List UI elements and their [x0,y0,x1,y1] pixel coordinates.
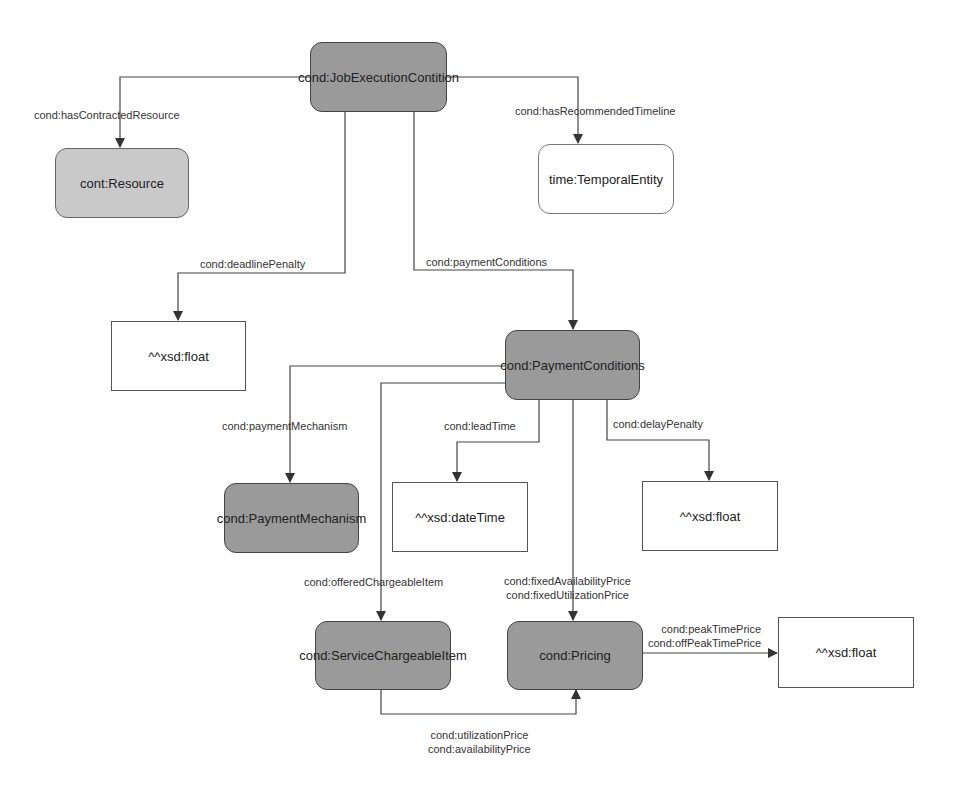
edge-label-fixed-utilization-price: cond:fixedUtilizationPrice [504,588,631,602]
node-delay-float[interactable]: ^^xsd:float [642,481,778,551]
node-pricing[interactable]: cond:Pricing [507,621,643,690]
node-label: cond:PaymentMechanism [217,511,367,526]
edge-label-fixed-prices: cond:fixedAvailabilityPrice cond:fixedUt… [504,574,631,602]
edge-label-availability-price: cond:availabilityPrice [428,742,531,756]
node-label: cond:PaymentConditions [500,358,645,373]
node-label: time:TemporalEntity [549,172,663,187]
node-label: ^^xsd:float [680,509,741,524]
edge-label-item-prices: cond:utilizationPrice cond:availabilityP… [428,728,531,756]
node-label: ^^xsd:float [148,349,209,364]
node-lead-datetime[interactable]: ^^xsd:dateTime [392,482,528,552]
edge-label-has-recommended-timeline: cond:hasRecommendedTimeline [515,104,675,118]
edge-label-lead-time: cond:leadTime [444,419,516,433]
node-payment-conditions[interactable]: cond:PaymentConditions [505,330,640,400]
node-payment-mechanism[interactable]: cond:PaymentMechanism [224,483,359,553]
node-service-chargeable-item[interactable]: cond:ServiceChargeableItem [315,621,451,690]
node-label: cont:Resource [80,176,164,191]
edge-label-off-peak-time-price: cond:offPeakTimePrice [648,636,761,650]
edge-label-fixed-availability-price: cond:fixedAvailabilityPrice [504,574,631,588]
node-label: ^^xsd:dateTime [415,510,505,525]
node-label: cond:ServiceChargeableItem [299,648,467,663]
node-label: cond:JobExecutionContition [298,70,459,85]
edge-label-delay-penalty: cond:delayPenalty [613,417,703,431]
node-temporal-entity[interactable]: time:TemporalEntity [538,144,674,214]
edge-label-has-contracted-resource: cond:hasContractedResource [34,108,180,122]
node-pricing-float[interactable]: ^^xsd:float [778,617,914,688]
edge-label-deadline-penalty: cond:deadlinePenalty [200,257,305,271]
edge-label-payment-mechanism: cond:paymentMechanism [222,419,347,433]
node-label: cond:Pricing [539,648,611,663]
node-resource[interactable]: cont:Resource [55,148,189,218]
edge-label-utilization-price: cond:utilizationPrice [428,728,531,742]
edge-label-payment-conditions: cond:paymentConditions [426,255,547,269]
node-job-execution-condition[interactable]: cond:JobExecutionContition [310,42,447,112]
edge-label-peak-time-price: cond:peakTimePrice [648,622,761,636]
node-deadline-float[interactable]: ^^xsd:float [111,321,246,391]
edge-label-peak-prices: cond:peakTimePrice cond:offPeakTimePrice [648,622,761,650]
edge-label-offered-chargeable-item: cond:offeredChargeableItem [304,575,443,589]
node-label: ^^xsd:float [816,645,877,660]
ontology-diagram: cond:JobExecutionContition cont:Resource… [0,0,957,791]
